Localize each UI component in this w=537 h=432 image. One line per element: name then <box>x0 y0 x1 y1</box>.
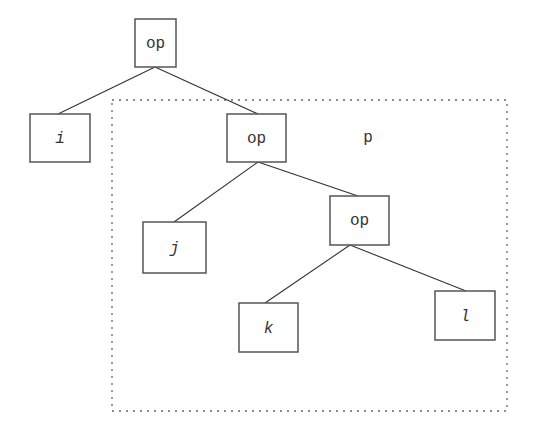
node-label: op <box>146 35 165 53</box>
node-label: k <box>264 320 274 338</box>
node-label: i <box>55 130 65 148</box>
node-label: j <box>169 240 180 258</box>
node-root-op: op <box>135 19 176 67</box>
node-leaf-i: i <box>30 114 90 162</box>
node-leaf-l: l <box>435 291 495 340</box>
edge-root-to-i <box>58 67 155 114</box>
node-leaf-k: k <box>239 303 298 352</box>
edge-low-to-k <box>265 245 350 303</box>
region-label-p: p <box>363 129 373 147</box>
node-label: l <box>460 308 470 326</box>
node-leaf-j: j <box>143 222 206 273</box>
node-mid-op: op <box>227 114 286 162</box>
node-label: op <box>247 130 266 148</box>
edge-root-to-mid <box>155 67 258 114</box>
edge-low-to-l <box>350 245 466 291</box>
node-label: op <box>350 212 369 230</box>
edge-mid-to-j <box>174 162 258 222</box>
edge-mid-to-low <box>258 162 358 196</box>
tree-diagram: op i op p j op k l <box>0 0 537 432</box>
node-low-op: op <box>330 196 389 245</box>
